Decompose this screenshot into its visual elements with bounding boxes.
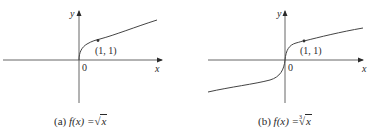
panel-a-point-marker <box>97 39 100 42</box>
panel-b-graph <box>208 11 363 103</box>
panel-b-y-label: y <box>277 9 281 19</box>
panel-a-curve <box>79 20 157 60</box>
panel-b-point-label: (1, 1) <box>300 46 322 56</box>
panel-b-point-marker <box>303 40 306 43</box>
panel-b-caption: (b) f(x) =3√x <box>258 116 312 127</box>
panel-b-caption-func: f(x) = <box>274 115 299 127</box>
panel-a-y-label: y <box>70 9 74 19</box>
panel-b-origin-label: 0 <box>288 63 293 73</box>
panel-b-x-label: x <box>362 64 366 74</box>
cbrt-radical-icon: 3√ <box>299 116 305 127</box>
panel-a-caption-radicand: x <box>100 114 107 127</box>
panel-a-caption-func: f(x) = <box>69 115 94 127</box>
panel-a-graph <box>3 11 162 103</box>
panel-a-caption-prefix: (a) <box>54 115 66 127</box>
panel-a-origin-label: 0 <box>82 63 87 73</box>
panel-a-point-label: (1, 1) <box>95 46 117 56</box>
panel-b-caption-index: 3 <box>299 114 302 120</box>
panel-a-x-label: x <box>155 64 159 74</box>
panel-a-caption: (a) f(x) =√x <box>54 116 107 127</box>
panel-b-caption-prefix: (b) <box>258 115 271 127</box>
panel-b-caption-radicand: x <box>305 114 312 127</box>
